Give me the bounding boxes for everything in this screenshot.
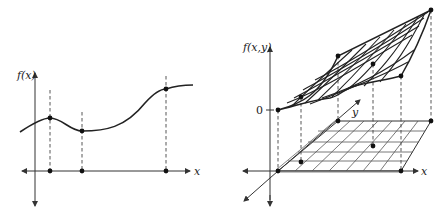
curve-point-1 [48,116,53,121]
zero-tick-label: 0 [256,104,263,117]
left-plot: f(x) x [16,69,201,206]
right-vertical-axis-label: f(x,y) [242,41,272,54]
base-point-2 [299,160,304,165]
base-point-5 [399,169,404,174]
right-x-axis-label: x [421,165,428,178]
base-grid [276,120,431,172]
base-point-1 [276,169,281,174]
axis-point-3 [164,169,169,174]
surface-point-5 [399,74,404,79]
diagram-canvas: f(x) x 0 [0,0,448,213]
surface-point-6 [429,8,434,13]
base-point-3 [336,119,341,124]
right-y-axis-label: y [351,106,359,119]
left-y-axis-label: f(x) [16,69,36,82]
curve-point-2 [80,129,85,134]
surface-point-1 [276,108,281,113]
surface-point-3 [336,54,341,59]
base-point-6 [429,119,434,124]
axis-point-1 [48,169,53,174]
surface-point-4 [371,62,376,67]
curve-point-3 [164,87,169,92]
right-plot: 0 [242,8,433,206]
right-y-depth-axis-front-arrow [244,178,270,201]
base-point-4 [371,144,376,149]
surface-point-2 [299,95,304,100]
function-curve [20,85,193,132]
left-x-axis-label: x [194,165,201,178]
axis-point-2 [80,169,85,174]
